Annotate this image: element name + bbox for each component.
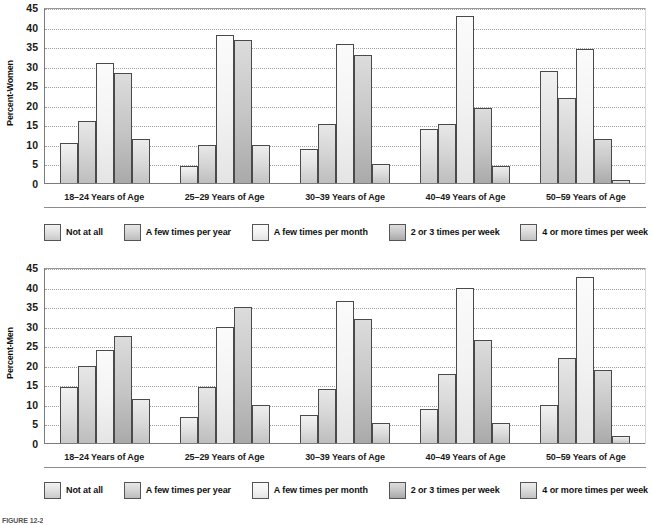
y-axis-ticks-women: 051015202530354045 — [0, 8, 44, 184]
legend-item[interactable]: A few times per month — [252, 482, 368, 499]
bar — [420, 409, 438, 444]
bar — [216, 327, 234, 444]
bar — [60, 387, 78, 444]
bar — [558, 98, 576, 184]
legend-swatch-icon — [124, 482, 141, 499]
bar — [234, 307, 252, 444]
y-tick-label: 15 — [26, 120, 38, 131]
bar — [78, 121, 96, 184]
x-axis-labels-men: 18–24 Years of Age25–29 Years of Age30–3… — [44, 448, 646, 466]
legend-label: A few times per year — [146, 227, 231, 237]
y-tick-label: 0 — [32, 439, 38, 450]
bar — [420, 129, 438, 184]
x-axis-label: 25–29 Years of Age — [164, 188, 284, 206]
bar — [252, 405, 270, 444]
legend-swatch-icon — [520, 482, 537, 499]
bar — [60, 143, 78, 184]
panel-divider-men — [44, 467, 646, 468]
bar-groups-men — [45, 269, 645, 444]
bar — [594, 370, 612, 444]
bar — [372, 164, 390, 184]
bar-group — [405, 269, 525, 444]
legend-label: A few times per year — [146, 485, 231, 495]
bar — [78, 366, 96, 444]
x-axis-labels-women: 18–24 Years of Age25–29 Years of Age30–3… — [44, 188, 646, 206]
bar — [474, 108, 492, 184]
y-tick-label: 5 — [32, 159, 38, 170]
bar-group — [525, 269, 645, 444]
bar — [576, 277, 594, 444]
bar — [612, 180, 630, 184]
x-axis-label: 30–39 Years of Age — [285, 188, 405, 206]
bar-group — [285, 9, 405, 184]
legend-item[interactable]: Not at all — [44, 224, 103, 241]
legend-item[interactable]: A few times per year — [124, 224, 231, 241]
bar — [456, 288, 474, 444]
legend-item[interactable]: 4 or more times per week — [520, 482, 648, 499]
bar — [300, 149, 318, 184]
figure-container: Percent-Women 051015202530354045 18–24 Y… — [0, 0, 653, 525]
legend-item[interactable]: 2 or 3 times per week — [389, 224, 500, 241]
legend-item[interactable]: A few times per year — [124, 482, 231, 499]
y-tick-label: 45 — [26, 263, 38, 274]
y-tick-label: 45 — [26, 3, 38, 14]
legend-women: Not at allA few times per yearA few time… — [44, 220, 648, 244]
legend-label: Not at all — [66, 227, 103, 237]
legend-item[interactable]: 4 or more times per week — [520, 224, 648, 241]
legend-label: 2 or 3 times per week — [411, 227, 500, 237]
bar — [318, 124, 336, 184]
y-tick-label: 35 — [26, 42, 38, 53]
panel-divider-women — [44, 207, 646, 208]
bar — [540, 71, 558, 184]
x-axis-label: 18–24 Years of Age — [44, 448, 164, 466]
bar — [354, 319, 372, 444]
bar — [114, 73, 132, 184]
bar — [132, 399, 150, 444]
x-axis-label: 40–49 Years of Age — [405, 188, 525, 206]
y-tick-label: 10 — [26, 400, 38, 411]
legend-swatch-icon — [389, 482, 406, 499]
legend-label: 4 or more times per week — [542, 485, 648, 495]
bar-group — [285, 269, 405, 444]
bar — [132, 139, 150, 184]
plot-area-women — [44, 8, 646, 184]
legend-swatch-icon — [252, 482, 269, 499]
bar — [372, 423, 390, 445]
x-axis-label: 50–59 Years of Age — [526, 188, 646, 206]
legend-label: A few times per month — [274, 485, 368, 495]
bar-group — [525, 9, 645, 184]
x-axis-label: 40–49 Years of Age — [405, 448, 525, 466]
legend-swatch-icon — [124, 224, 141, 241]
bar-group — [45, 9, 165, 184]
legend-label: A few times per month — [274, 227, 368, 237]
bar — [198, 145, 216, 184]
bar — [252, 145, 270, 184]
bar — [438, 124, 456, 184]
legend-item[interactable]: Not at all — [44, 482, 103, 499]
y-tick-label: 30 — [26, 61, 38, 72]
bar-groups-women — [45, 9, 645, 184]
bar — [180, 166, 198, 184]
y-tick-label: 35 — [26, 302, 38, 313]
bar — [216, 35, 234, 184]
bar — [438, 374, 456, 444]
plot-area-men — [44, 268, 646, 444]
legend-swatch-icon — [44, 224, 61, 241]
y-tick-label: 0 — [32, 179, 38, 190]
bar — [492, 423, 510, 444]
y-tick-label: 30 — [26, 321, 38, 332]
legend-swatch-icon — [44, 482, 61, 499]
bar — [474, 340, 492, 444]
bar — [492, 166, 510, 184]
bar — [576, 49, 594, 184]
bar — [594, 139, 612, 184]
bar-group — [165, 9, 285, 184]
bar — [114, 336, 132, 444]
bar — [318, 389, 336, 444]
chart-panel-men: Percent-Men 051015202530354045 18–24 Yea… — [0, 260, 653, 518]
legend-label: 4 or more times per week — [542, 227, 648, 237]
legend-item[interactable]: 2 or 3 times per week — [389, 482, 500, 499]
x-axis-label: 25–29 Years of Age — [164, 448, 284, 466]
chart-panel-women: Percent-Women 051015202530354045 18–24 Y… — [0, 0, 653, 260]
legend-item[interactable]: A few times per month — [252, 224, 368, 241]
